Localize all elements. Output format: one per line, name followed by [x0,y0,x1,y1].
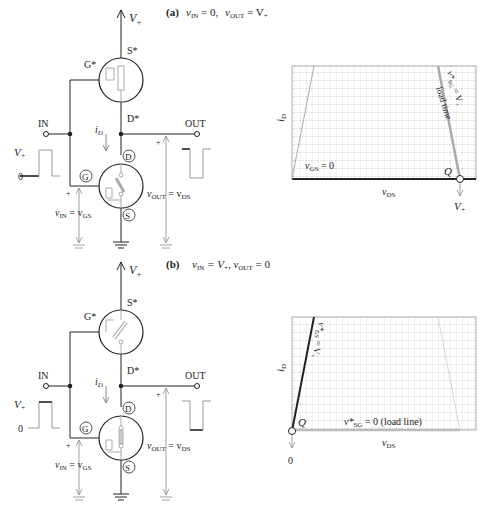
chart-b: 0 Q v*SG = 0 (load line) vDS iD v*GS = V… [274,317,476,466]
out-terminal [195,384,200,389]
svg-text:vIN = 0, vOUT = V+: vIN = 0, vOUT = V+ [186,6,268,20]
svg-text:D: D [125,404,132,414]
out-label: OUT [185,118,206,129]
svg-text:iD: iD [274,114,288,122]
chart-a: V+ Q vGS = 0 vDS iD v*SG = V+ load time [274,66,476,214]
panel-a-caption: (a) vIN = 0, vOUT = V+ [166,6,268,20]
svg-text:V+: V+ [14,398,26,412]
svg-text:G: G [82,424,89,434]
svg-text:iD: iD [274,364,288,372]
supply-label: V+ [129,11,142,27]
svg-text:OUT: OUT [185,370,206,381]
caption-vout-sub: OUT [230,12,245,20]
svg-text:0: 0 [288,455,293,466]
p-gate-label: G* [84,59,96,70]
svg-text:+: + [66,189,71,198]
n-gate-label: G [82,172,89,182]
vin-measurement: + vIN = vGS [55,188,92,248]
svg-text:V+: V+ [129,263,142,279]
caption-vout-value: = V [244,6,264,18]
svg-text:vIN = V+, vOUT = 0: vIN = V+, vOUT = 0 [192,258,270,272]
current-arrow: iD [95,124,109,151]
pmos-transistor: S* G* D* [84,297,143,376]
pmos-transistor: S* G* D* [84,45,143,124]
vout-measurement: + vOUT = vDS [147,136,191,248]
vin-measurement: + vIN = vGS [55,440,92,500]
vout-measurement: + vOUT = vDS [147,388,191,500]
out-terminal [195,132,200,137]
in-terminal [44,132,49,137]
current-arrow: iD [95,376,109,403]
svg-text:vOUT = vDS: vOUT = vDS [147,188,191,201]
svg-text:vOUT = vDS: vOUT = vDS [147,440,191,453]
svg-text:V+: V+ [454,200,466,214]
panel-a: (a) vIN = 0, vOUT = V+ V+ S* G* D* [14,6,476,248]
svg-text:vIN = vGS: vIN = vGS [55,459,92,472]
caption-label: (b) [166,258,180,271]
q-label: Q [444,165,452,177]
svg-text:IN: IN [38,370,49,381]
svg-text:+: + [156,390,161,399]
panel-b: (b) vIN = V+, vOUT = 0 V+ S* G* D* [14,258,476,500]
svg-text:iD: iD [95,124,103,137]
svg-text:+: + [66,441,71,450]
svg-text:+: + [156,138,161,147]
in-label: IN [38,118,49,129]
svg-text:S*: S* [127,297,138,308]
p-drain-label: D* [127,113,139,124]
input-waveform: V+ 0 [14,146,60,182]
svg-text:0: 0 [18,171,23,182]
n-source-label: S [125,211,130,221]
svg-text:S: S [125,463,130,473]
svg-text:V+: V+ [14,146,26,160]
caption-label: (a) [166,6,179,19]
svg-text:vIN = vGS: vIN = vGS [55,207,92,220]
in-terminal [44,384,49,389]
input-waveform: V+ 0 [14,398,60,434]
p-source-label: S* [127,45,138,56]
output-waveform [182,401,211,430]
panel-b-caption: (b) vIN = V+, vOUT = 0 [166,258,270,272]
output-waveform [182,149,211,178]
cmos-inverter-diagram: (a) vIN = 0, vOUT = V+ V+ S* G* D* [0,0,494,522]
n-drain-label: D [125,152,132,162]
svg-text:vDS: vDS [382,437,396,450]
q-point [457,176,464,183]
caption-vin-sub: IN [191,12,198,20]
q-label: Q [298,416,306,428]
q-point [289,428,296,435]
caption-vin-value: = 0, [198,6,218,18]
svg-text:vDS: vDS [382,186,396,199]
caption-vout-value-sub: + [264,12,268,20]
svg-text:iD: iD [95,376,103,389]
svg-text:D*: D* [127,365,139,376]
svg-text:G*: G* [84,311,96,322]
svg-text:0: 0 [18,423,23,434]
